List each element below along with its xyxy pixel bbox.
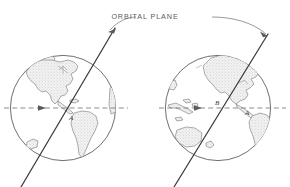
leader-arrowhead-left [108, 28, 116, 33]
point-label-right-a: A [244, 109, 250, 117]
orbital-plane-diagram: A [0, 0, 290, 187]
point-label-left-a: A [68, 114, 74, 122]
landmass-south-america-right [249, 113, 272, 156]
point-label-right-b: B [215, 99, 220, 107]
orbital-plane-label: ORBITAL PLANE [111, 12, 178, 21]
orbital-plane-annotation: ORBITAL PLANE [108, 12, 268, 37]
earth-globe-left: A [4, 28, 128, 187]
diagram-canvas: A [0, 0, 290, 187]
earth-globe-right: B A [159, 34, 286, 187]
leader-line-right [212, 17, 266, 34]
